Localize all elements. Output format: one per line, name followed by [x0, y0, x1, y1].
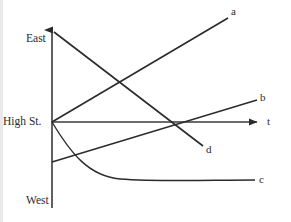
curve-label-a: a: [231, 6, 236, 17]
axis-tick-label-west: West: [26, 195, 49, 207]
axis-tick-label-east: East: [26, 33, 46, 45]
curve-d: [54, 32, 203, 146]
curve-a: [52, 18, 228, 122]
position-vs-time-diagram: East High St. West t a b c d: [0, 0, 291, 222]
curve-label-b: b: [260, 92, 266, 103]
axis-label-t: t: [267, 116, 270, 127]
curve-label-c: c: [259, 174, 264, 185]
curve-label-d: d: [206, 144, 212, 155]
axis-tick-label-high-st: High St.: [3, 116, 41, 128]
